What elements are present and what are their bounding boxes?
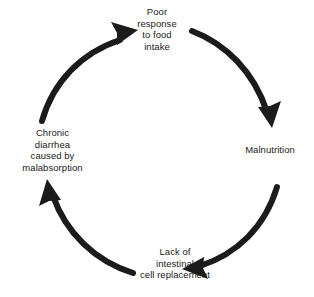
node-label-line: Poor xyxy=(117,6,197,18)
node-label-poor-response: Poor response to food intake xyxy=(117,6,197,52)
node-label-line: Chronic xyxy=(4,127,101,139)
node-label-line: caused by xyxy=(4,150,101,162)
node-label-chronic-diarrhea: Chronic diarrhea caused by malabsorption xyxy=(4,127,101,173)
arrow-bottom-to-left xyxy=(39,179,133,273)
node-label-line: malabsorption xyxy=(4,162,101,174)
arrow-top-to-right xyxy=(192,31,281,128)
arrow-top-to-right-shaft xyxy=(192,31,267,112)
node-label-line: to food xyxy=(117,29,197,41)
node-label-line: cell replacement xyxy=(125,269,225,281)
node-label-line: intestinal xyxy=(125,258,225,270)
node-label-line: Lack of xyxy=(125,246,225,258)
node-label-line: Malnutrition xyxy=(230,144,310,156)
arrow-left-to-top-shaft xyxy=(42,40,120,121)
node-label-line: response xyxy=(117,18,197,30)
node-label-line: intake xyxy=(117,41,197,53)
cycle-diagram: Poor response to food intake Malnutritio… xyxy=(0,0,314,297)
arrow-bottom-to-left-shaft xyxy=(53,196,133,273)
node-label-malnutrition: Malnutrition xyxy=(230,144,310,156)
node-label-lack-of-replacement: Lack of intestinal cell replacement xyxy=(125,246,225,281)
node-label-line: diarrhea xyxy=(4,139,101,151)
